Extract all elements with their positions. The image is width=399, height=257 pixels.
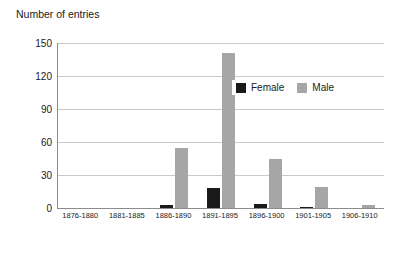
y-axis-tick-label: 90 (41, 104, 52, 115)
y-axis-tick-label: 120 (35, 71, 52, 82)
x-axis-tick-label: 1876-1880 (62, 211, 98, 220)
bar-male-1906-1910 (362, 205, 375, 208)
chart-title: Number of entries (16, 8, 99, 20)
chart-legend: FemaleMale (232, 80, 338, 95)
x-axis-tick-label: 1881-1885 (109, 211, 145, 220)
bar-male-1886-1890 (175, 148, 188, 209)
bar-female-1886-1890 (160, 205, 173, 208)
bar-group (58, 43, 105, 208)
bar-group (105, 43, 152, 208)
bar-male-1891-1895 (222, 53, 235, 208)
chart-figure: Number of entries 0306090120150 1876-188… (0, 0, 399, 257)
y-axis-tick-label: 0 (46, 203, 52, 214)
bar-group (291, 43, 338, 208)
bar-group (198, 43, 245, 208)
bar-group (151, 43, 198, 208)
legend-item-female: Female (236, 82, 284, 93)
bar-series-container (58, 43, 384, 208)
plot-area (57, 43, 384, 209)
y-axis-tick-label: 30 (41, 170, 52, 181)
bar-male-1896-1900 (269, 159, 282, 209)
bar-female-1896-1900 (254, 204, 267, 208)
legend-label: Male (312, 82, 334, 93)
bar-female-1891-1895 (207, 188, 220, 208)
bar-group (244, 43, 291, 208)
legend-swatch-male (297, 83, 307, 93)
bar-male-1901-1905 (315, 187, 328, 208)
x-axis-tick-label: 1906-1910 (342, 211, 378, 220)
y-axis-tick-labels: 0306090120150 (14, 43, 52, 208)
legend-item-male: Male (297, 82, 334, 93)
y-axis-tick-label: 150 (35, 38, 52, 49)
x-axis-tick-label: 1901-1905 (295, 211, 331, 220)
x-axis-tick-label: 1886-1890 (155, 211, 191, 220)
y-axis-tick-label: 60 (41, 137, 52, 148)
bar-female-1901-1905 (300, 207, 313, 208)
bar-group (337, 43, 384, 208)
legend-swatch-female (236, 83, 246, 93)
x-axis-tick-label: 1896-1900 (249, 211, 285, 220)
x-axis-tick-label: 1891-1895 (202, 211, 238, 220)
legend-label: Female (251, 82, 284, 93)
x-axis-tick-labels: 1876-18801881-18851886-18901891-18951896… (57, 211, 383, 227)
